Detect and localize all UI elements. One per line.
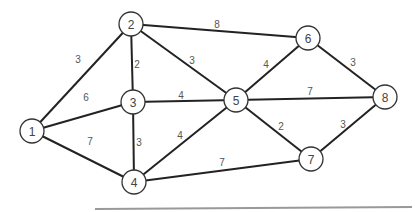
edge-weight-4-5: 4 (177, 130, 183, 141)
edges-layer (32, 24, 385, 182)
edge-weight-7-8: 3 (340, 119, 346, 130)
node-label: 4 (131, 176, 138, 190)
edge-weight-6-8: 3 (350, 57, 356, 68)
edge-5-6 (236, 38, 308, 100)
edge-6-8 (308, 38, 385, 97)
node-3: 3 (121, 90, 145, 114)
node-7: 7 (299, 147, 323, 171)
edge-weight-4-7: 7 (219, 157, 225, 168)
edge-weight-1-3: 6 (83, 92, 89, 103)
node-4: 4 (122, 170, 146, 194)
edge-4-5 (134, 100, 236, 182)
nodes-layer: 12345678 (20, 12, 397, 194)
edge-weight-3-4: 3 (136, 137, 142, 148)
edge-3-5 (133, 100, 236, 102)
node-8: 8 (373, 85, 397, 109)
edge-1-4 (32, 131, 134, 182)
edge-1-3 (32, 102, 133, 131)
edge-weight-5-6: 4 (263, 59, 269, 70)
edge-weight-3-5: 4 (178, 90, 184, 101)
edge-5-7 (236, 100, 311, 159)
edge-7-8 (311, 97, 385, 159)
node-label: 1 (29, 125, 36, 139)
node-label: 6 (305, 32, 312, 46)
node-label: 8 (382, 91, 389, 105)
edge-weight-2-5: 3 (189, 55, 195, 66)
edge-weight-1-4: 7 (87, 136, 93, 147)
node-label: 7 (308, 153, 315, 167)
node-label: 5 (233, 94, 240, 108)
edge-weight-5-7: 2 (278, 121, 284, 132)
node-1: 1 (20, 119, 44, 143)
node-2: 2 (119, 12, 143, 36)
node-6: 6 (296, 26, 320, 50)
graph-diagram: 367238434747233 12345678 (0, 0, 415, 212)
edge-weight-1-2: 3 (75, 54, 81, 65)
bottom-rule (95, 207, 412, 209)
edge-5-8 (236, 97, 385, 100)
edge-weight-5-8: 7 (307, 86, 313, 97)
node-label: 2 (128, 18, 135, 32)
edge-1-2 (32, 24, 131, 131)
node-5: 5 (224, 88, 248, 112)
edge-weight-2-6: 8 (214, 19, 220, 30)
node-label: 3 (130, 96, 137, 110)
edge-weight-2-3: 2 (134, 59, 140, 70)
